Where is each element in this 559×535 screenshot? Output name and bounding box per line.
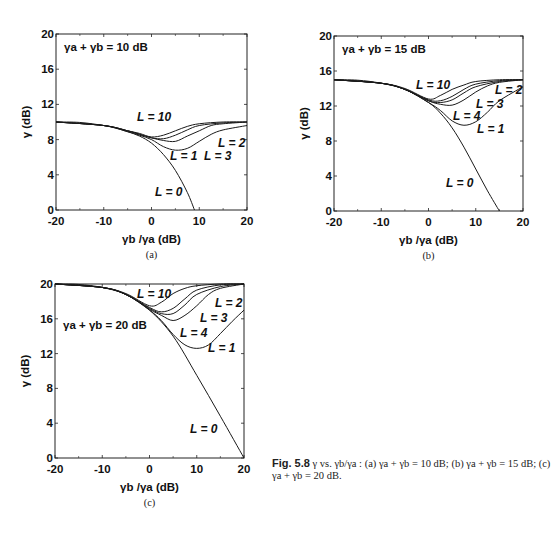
y-axis-label: γ (dB)	[19, 355, 31, 388]
x-tick-label: -20	[47, 463, 64, 475]
y-tick-label: 16	[40, 313, 53, 325]
x-axis-label: γb /γa (dB)	[120, 481, 179, 493]
y-axis-label: γ (dB)	[298, 107, 310, 140]
y-tick-label: 0	[326, 205, 332, 217]
curve-label: L = 10	[137, 287, 171, 301]
caption-text: γ vs. γb/γa : (a) γa + γb = 10 dB; (b) γ…	[272, 458, 550, 481]
sum-annotation: γa + γb = 15 dB	[342, 43, 426, 55]
x-tick-label: 20	[517, 216, 530, 228]
figure-caption: Fig. 5.8 γ vs. γb/γa : (a) γa + γb = 10 …	[272, 457, 557, 482]
x-tick-label: 0	[146, 463, 152, 475]
y-tick-label: 4	[48, 169, 55, 181]
y-tick-label: 16	[319, 65, 332, 77]
curve-label: L = 10	[416, 78, 450, 92]
curve-label: L = 2	[495, 83, 523, 97]
curve-label: L = 0	[190, 422, 218, 436]
curve-label: L = 1	[477, 122, 505, 136]
curve-label: L = 0	[155, 185, 183, 199]
figure-number: Fig. 5.8	[272, 457, 310, 469]
panel-label: (a)	[146, 249, 158, 261]
y-tick-label: 16	[41, 63, 54, 75]
x-tick-label: 10	[190, 463, 203, 475]
curve-label: L = 4	[453, 109, 481, 123]
y-tick-label: 0	[48, 204, 54, 216]
curve-label: L = 0	[446, 176, 474, 190]
y-tick-label: 4	[326, 170, 333, 182]
x-tick-label: -10	[94, 463, 111, 475]
x-tick-label: 20	[241, 215, 254, 227]
y-tick-label: 4	[47, 417, 54, 429]
y-axis-label: γ (dB)	[20, 106, 32, 139]
x-tick-label: 0	[425, 216, 431, 228]
y-tick-label: 8	[48, 134, 55, 146]
curve-label: L = 1	[170, 149, 198, 163]
y-tick-label: 20	[41, 28, 54, 40]
x-tick-label: 0	[148, 215, 154, 227]
figure-charts: -20-1001020048121620γb /γa (dB)γ (dB)(a)…	[0, 0, 559, 535]
series-line	[334, 80, 499, 211]
x-tick-label: -10	[373, 216, 390, 228]
y-tick-label: 12	[319, 100, 332, 112]
curve-label: L = 3	[200, 311, 228, 325]
y-tick-label: 12	[41, 98, 54, 110]
x-tick-label: 10	[469, 216, 482, 228]
x-tick-label: 20	[238, 463, 251, 475]
curve-label: L = 2	[218, 136, 246, 150]
x-tick-label: 10	[193, 215, 206, 227]
panel-label: (b)	[422, 250, 435, 262]
x-tick-label: -10	[95, 215, 112, 227]
y-tick-label: 8	[47, 382, 54, 394]
x-axis-label: γb /γa (dB)	[122, 233, 181, 245]
y-tick-label: 20	[40, 278, 53, 290]
x-axis-label: γb /γa (dB)	[399, 234, 458, 246]
curve-label: L = 4	[180, 326, 208, 340]
curve-label: L = 10	[137, 110, 171, 124]
x-tick-label: -20	[48, 215, 65, 227]
chart-c: -20-1001020048121620γb /γa (dB)γ (dB)(c)…	[19, 278, 250, 509]
chart-a: -20-1001020048121620γb /γa (dB)γ (dB)(a)…	[20, 28, 253, 261]
chart-b: -20-1001020048121620γb /γa (dB)γ (dB)(b)…	[298, 30, 529, 262]
y-tick-label: 20	[319, 30, 332, 42]
y-tick-label: 0	[47, 452, 53, 464]
sum-annotation: γa + γb = 20 dB	[63, 319, 147, 331]
sum-annotation: γa + γb = 10 dB	[64, 41, 148, 53]
panel-label: (c)	[144, 497, 156, 509]
x-tick-label: -20	[326, 216, 343, 228]
curve-label: L = 2	[215, 296, 243, 310]
curve-label: L = 3	[204, 149, 232, 163]
y-tick-label: 8	[326, 135, 333, 147]
curve-label: L = 1	[208, 341, 236, 355]
y-tick-label: 12	[40, 348, 53, 360]
